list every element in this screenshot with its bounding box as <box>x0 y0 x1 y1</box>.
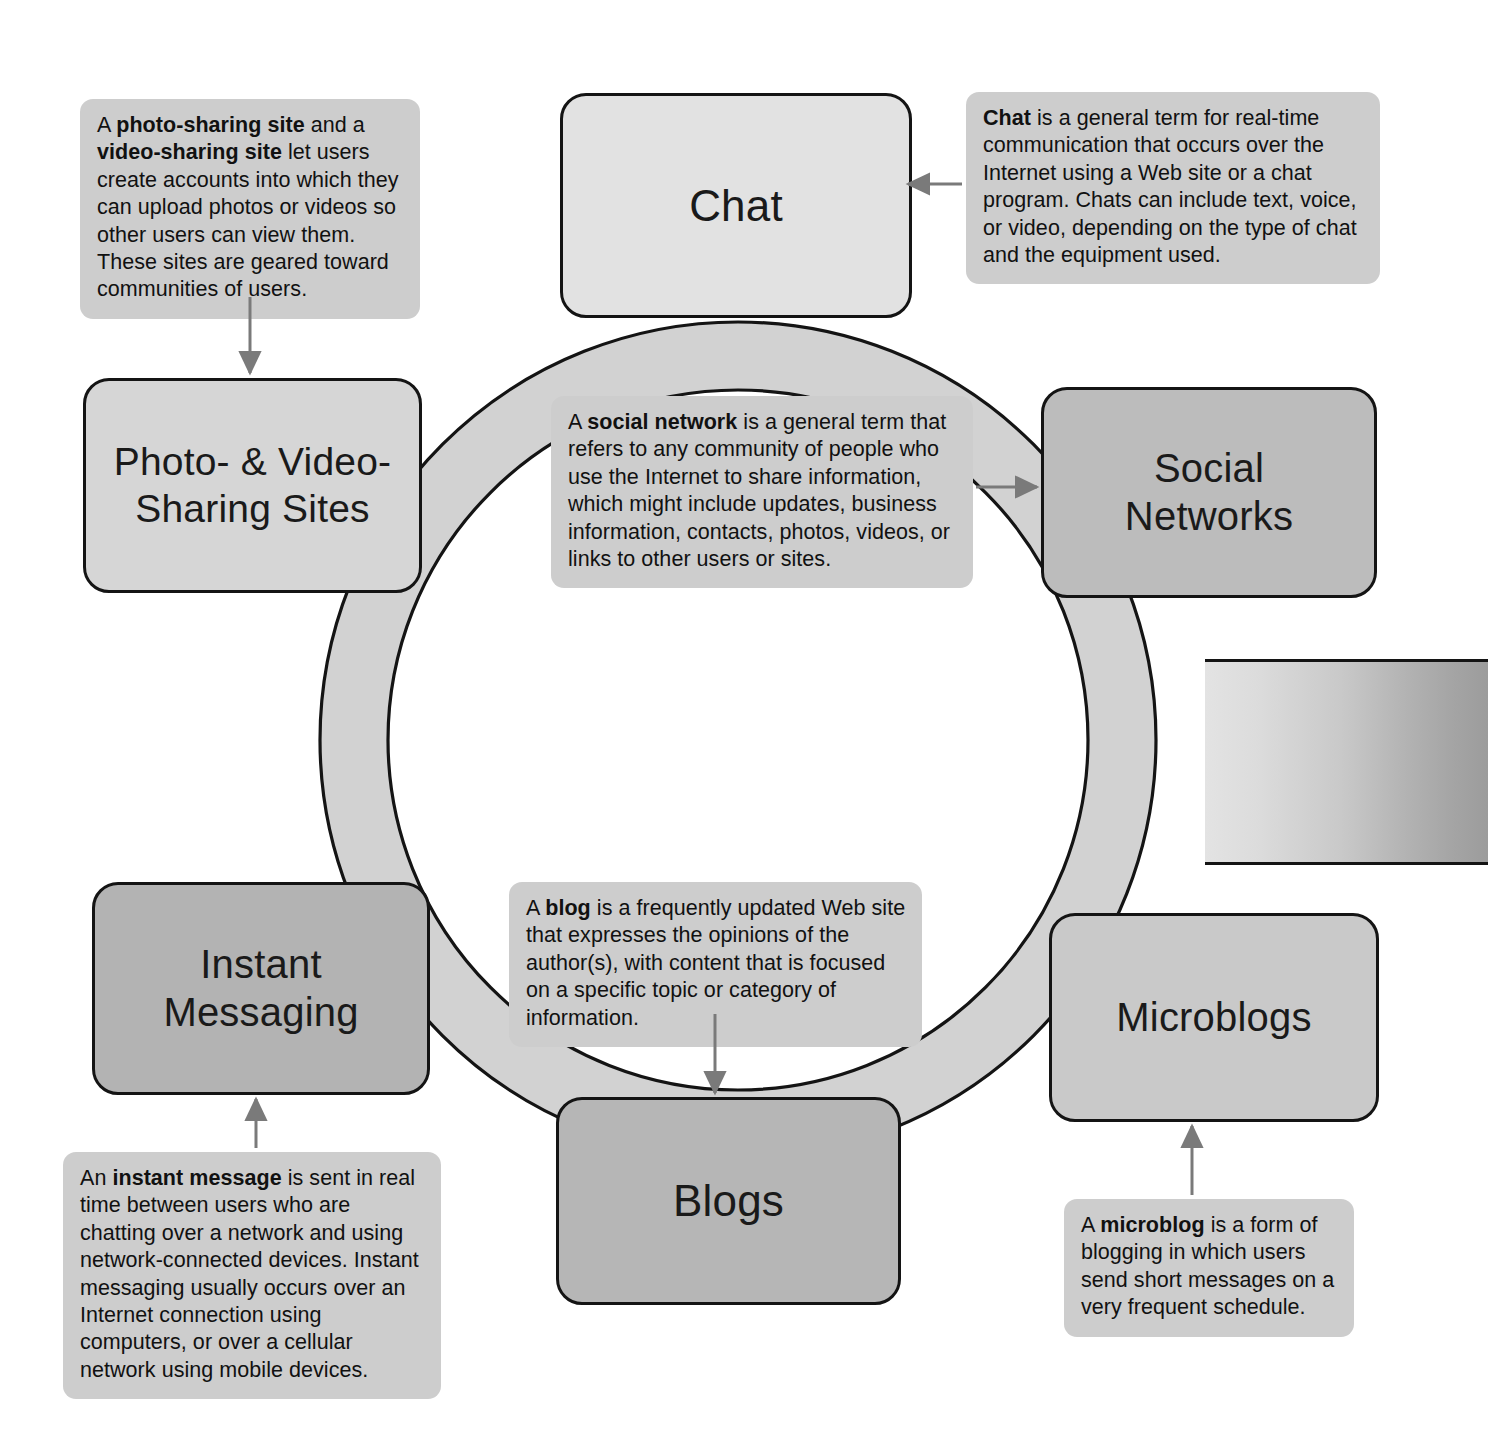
callout-microblog: A microblog is a form of blogging in whi… <box>1064 1199 1354 1337</box>
node-social-networks[interactable]: Social Networks <box>1041 387 1377 598</box>
node-instant-messaging-label: Instant Messaging <box>153 941 368 1035</box>
node-chat-label: Chat <box>679 180 793 232</box>
callout-instant-message: An instant message is sent in real time … <box>63 1152 441 1399</box>
node-photo-video-sharing-sites-label: Photo- & Video- Sharing Sites <box>104 439 402 531</box>
node-microblogs-label: Microblogs <box>1106 994 1321 1041</box>
callout-chat: Chat is a general term for real-time com… <box>966 92 1380 284</box>
node-chat[interactable]: Chat <box>560 93 912 318</box>
diagram-canvas: Chat Social Networks Microblogs Blogs In… <box>0 0 1488 1447</box>
node-blogs[interactable]: Blogs <box>556 1097 901 1305</box>
node-social-networks-label: Social Networks <box>1115 445 1303 539</box>
right-edge-gradient-band <box>1205 659 1488 865</box>
node-photo-video-sharing-sites[interactable]: Photo- & Video- Sharing Sites <box>83 378 422 593</box>
callout-blog: A blog is a frequently updated Web site … <box>509 882 922 1047</box>
node-blogs-label: Blogs <box>663 1175 794 1227</box>
callout-photo-video-sharing: A photo-sharing site and a video-sharing… <box>80 99 420 319</box>
callout-social-network: A social network is a general term that … <box>551 396 973 588</box>
node-microblogs[interactable]: Microblogs <box>1049 913 1379 1122</box>
node-instant-messaging[interactable]: Instant Messaging <box>92 882 430 1095</box>
